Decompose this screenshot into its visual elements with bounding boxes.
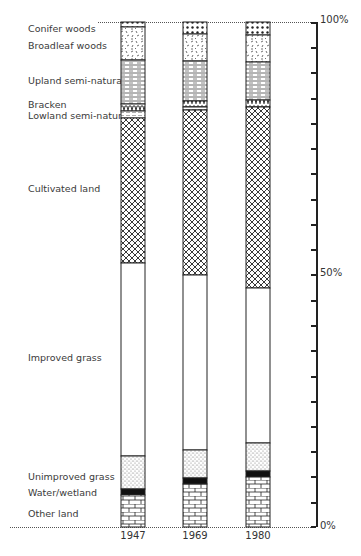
year-label-1980: 1980: [238, 530, 278, 541]
axis-label-0: 0%: [320, 520, 336, 531]
tick: [311, 401, 316, 403]
tick: [311, 123, 316, 125]
axis-label-100: 100%: [320, 14, 349, 25]
tick: [311, 451, 316, 453]
year-label-1969: 1969: [175, 530, 215, 541]
percent-axis: [316, 22, 318, 527]
bar-1980: [246, 22, 270, 527]
tick: [311, 224, 316, 226]
tick: [311, 476, 316, 478]
bar-1969: [183, 22, 207, 527]
land-use-chart: Conifer woods Broadleaf woods Upland sem…: [0, 0, 361, 556]
tick: [311, 98, 316, 100]
tick: [311, 376, 316, 378]
tick: [311, 173, 316, 175]
tick: [311, 325, 316, 327]
tick: [311, 47, 316, 49]
tick: [311, 502, 316, 504]
bars-svg: [0, 0, 361, 556]
tick: [311, 249, 316, 251]
year-label-1947: 1947: [113, 530, 153, 541]
bar-1947: [121, 22, 145, 527]
tick-100: [311, 22, 316, 24]
axis-label-50: 50%: [320, 267, 342, 278]
tick: [311, 300, 316, 302]
tick: [311, 426, 316, 428]
tick: [311, 72, 316, 74]
tick: [311, 148, 316, 150]
tick-50: [311, 274, 316, 276]
tick: [311, 199, 316, 201]
tick-0: [311, 526, 316, 528]
tick: [311, 350, 316, 352]
